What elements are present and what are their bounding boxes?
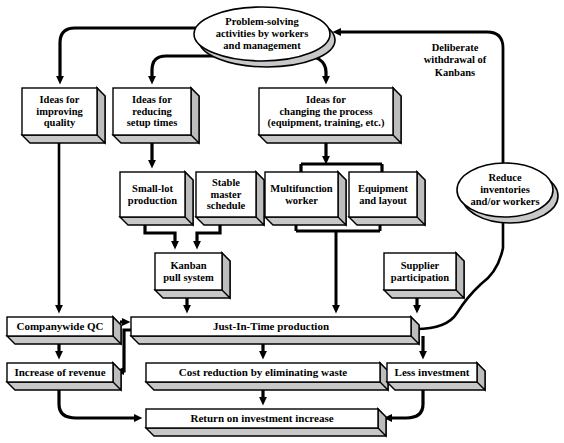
- box-kanban-pull: [155, 253, 230, 298]
- box-return-on-investment: [146, 409, 386, 436]
- ellipse-reduce-inventories: [457, 163, 553, 217]
- box-ideas-quality: [22, 88, 105, 143]
- box-stable-master: [196, 172, 264, 225]
- box-supplier-participation: [384, 253, 464, 298]
- box-multifunction-worker: [265, 172, 346, 225]
- ellipse-problem-solving: [194, 7, 330, 61]
- box-jit-production: [131, 317, 419, 344]
- box-ideas-process: [259, 88, 401, 143]
- annotation-deliberate-withdrawal: Deliberate withdrawal of Kanbans: [400, 42, 510, 79]
- box-equipment-layout: [349, 172, 425, 225]
- connector-ps-to-ideas-quality: [60, 28, 196, 80]
- box-layer: [7, 88, 485, 436]
- jit-flowchart-diagram: Problem-solving activities by workers an…: [0, 0, 564, 443]
- box-small-lot: [120, 172, 193, 225]
- box-ideas-setup: [113, 88, 199, 143]
- box-increase-revenue: [7, 363, 121, 390]
- box-less-investment: [387, 363, 485, 390]
- box-cost-reduction: [146, 363, 388, 390]
- box-companywide-qc: [7, 317, 121, 344]
